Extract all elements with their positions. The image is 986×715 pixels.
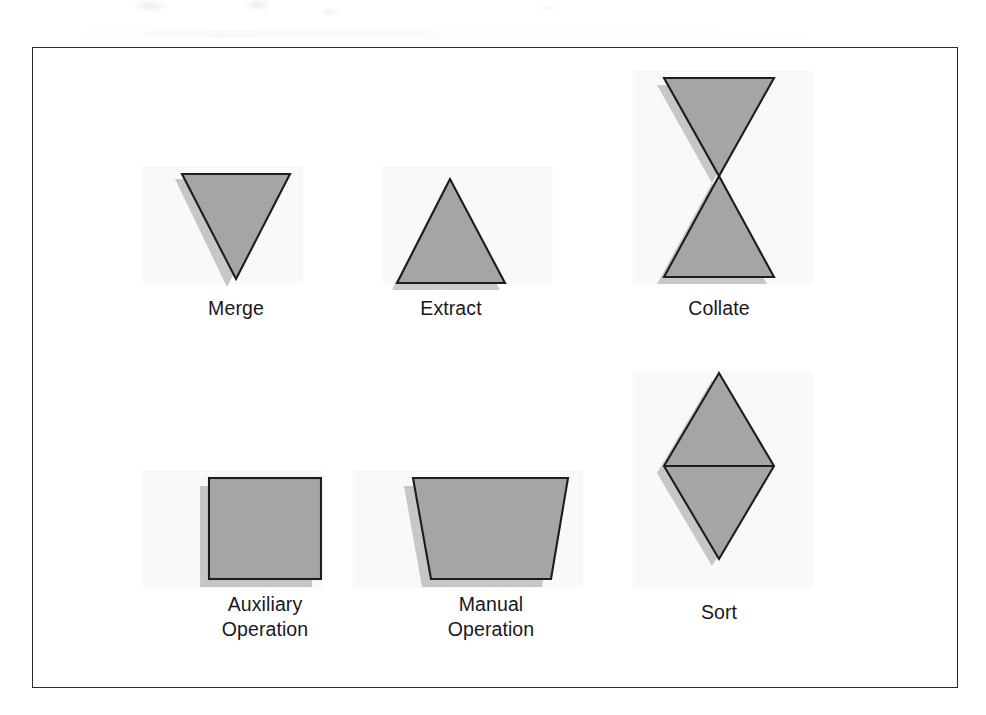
extract-symbol-icon [383,166,553,284]
symbol-manual-operation: Manual Operation [353,470,583,670]
diagram-frame: Merge Extract [32,47,958,688]
merge-label: Merge [208,296,264,321]
auxiliary-operation-symbol-icon [143,470,323,588]
symbol-auxiliary-operation: Auxiliary Operation [143,470,323,670]
page-canvas: Merge Extract [0,0,986,715]
merge-shape [143,166,303,284]
symbol-collate: Collate [633,70,813,356]
collate-label: Collate [688,296,749,321]
symbol-sort: Sort [633,370,813,660]
extract-label: Extract [420,296,481,321]
auxiliary-operation-shape [143,470,323,588]
scan-artifact-line [60,30,940,38]
symbol-extract: Extract [383,166,553,356]
sort-symbol-icon [633,370,813,588]
sort-label: Sort [701,600,737,625]
scan-artifact-top [0,0,986,30]
manual-operation-shape [353,470,583,588]
merge-symbol-icon [143,166,303,284]
collate-symbol-icon [633,70,813,284]
extract-shape [383,166,553,284]
manual-operation-symbol-icon [353,470,583,588]
auxiliary-operation-label: Auxiliary Operation [222,592,309,642]
collate-shape [633,70,813,284]
sort-shape [633,370,813,588]
symbol-merge: Merge [143,166,303,356]
manual-operation-label: Manual Operation [448,592,535,642]
